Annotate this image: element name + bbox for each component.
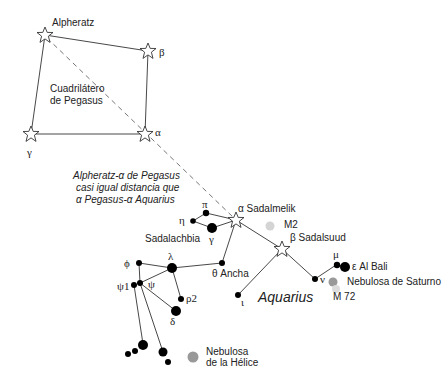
psi-star xyxy=(137,280,143,286)
eta-label: η xyxy=(179,214,185,226)
helix-nebula-label-line2: de la Hélice xyxy=(206,357,259,368)
gamma-peg-star-icon xyxy=(23,126,39,141)
phi-label: ϕ xyxy=(124,257,130,269)
nu-label: ν xyxy=(320,273,325,285)
star-chart: Alpheratz β γ α Cuadrilátero de Pegasus … xyxy=(0,0,447,384)
m2-cluster-icon xyxy=(266,222,275,231)
alpheratz-star-icon xyxy=(37,27,53,42)
pi-star xyxy=(203,210,209,216)
annotation-line1: Alpheratz-α de Pegasus xyxy=(72,170,180,181)
star xyxy=(159,348,168,357)
epsilon-star xyxy=(340,262,350,272)
mu-star xyxy=(334,262,340,268)
sadalmelik-label: α Sadalmelik xyxy=(238,203,296,214)
star xyxy=(138,340,148,350)
pi-label: π xyxy=(202,198,208,210)
m72-label: M 72 xyxy=(333,291,356,302)
aquarius-title: Aquarius xyxy=(257,289,313,305)
annotation-line2: casi igual distancia que xyxy=(76,182,180,193)
alpha-peg-star-icon xyxy=(137,126,153,141)
annotation-line3: α Pegasus-α Aquarius xyxy=(76,194,175,205)
helix-nebula-label-line1: Nebulosa xyxy=(206,346,249,357)
iota-label: ι xyxy=(241,296,244,308)
alpheratz-label: Alpheratz xyxy=(52,17,94,28)
theta-star xyxy=(219,260,225,266)
mu-label: μ xyxy=(333,248,339,260)
star xyxy=(132,348,138,354)
eta-star xyxy=(190,218,196,224)
gamma-peg-label: γ xyxy=(26,146,32,158)
rho2-star xyxy=(178,296,184,302)
sadalachbia-label: Sadalachbia xyxy=(145,233,200,244)
gamma-label: γ xyxy=(208,233,214,245)
pegasus-title-line2: de Pegasus xyxy=(50,95,103,106)
saturn-nebula-label: Nebulosa de Saturno xyxy=(347,276,441,287)
lambda-star xyxy=(167,263,177,273)
star xyxy=(165,359,171,365)
nu-star xyxy=(312,276,318,282)
lambda-label: λ xyxy=(168,250,174,262)
psi1-star xyxy=(131,282,137,288)
pegasus-title-line1: Cuadrilátero xyxy=(50,83,105,94)
helix-nebula-icon xyxy=(188,352,199,363)
phi-star xyxy=(136,260,142,266)
gamma-star xyxy=(207,223,217,233)
m2-label: M2 xyxy=(284,219,298,230)
rho2-label: ρ2 xyxy=(186,292,197,304)
theta-ancha-label: θ Ancha xyxy=(212,268,249,279)
epsilon-al-bali-label: ε Al Bali xyxy=(352,261,388,272)
beta-peg-label: β xyxy=(159,46,165,58)
delta-label: δ xyxy=(170,315,175,327)
star xyxy=(125,351,131,357)
psi-label: ψ xyxy=(148,278,155,290)
psi1-label: ψ1 xyxy=(117,280,129,292)
alpha-peg-label: α xyxy=(155,126,161,138)
sadalsuud-label: β Sadalsuud xyxy=(290,232,346,243)
